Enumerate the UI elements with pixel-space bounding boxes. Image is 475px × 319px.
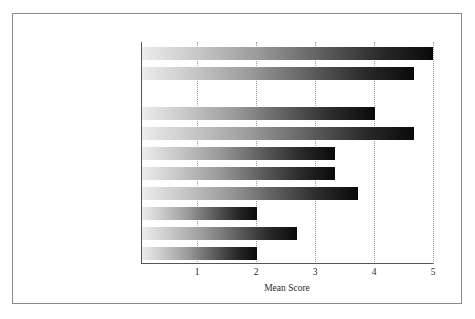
x-tick-label-3: 3 [305, 267, 325, 277]
bar-balance [142, 227, 297, 240]
bar-uncertainties [142, 207, 257, 220]
x-axis-title: Mean Score [141, 283, 433, 293]
x-axis-line [141, 263, 433, 264]
bar-consequences [142, 167, 335, 180]
x-tick-label-5: 5 [423, 267, 443, 277]
chart-figure: Readability Style Technical terms Visual… [0, 0, 475, 319]
x-tick-label-2: 2 [246, 267, 266, 277]
bar-visual-appeal [142, 107, 375, 120]
bar-style [142, 67, 414, 80]
x-tick-label-4: 4 [364, 267, 384, 277]
figure-frame: Readability Style Technical terms Visual… [12, 13, 462, 304]
bar-condition [142, 127, 414, 140]
gridline-5 [433, 42, 434, 264]
bar-causes [142, 147, 335, 160]
x-tick-label-1: 1 [187, 267, 207, 277]
bar-informed-choice [142, 247, 257, 260]
bar-readability [142, 47, 433, 60]
bar-self-care [142, 187, 358, 200]
